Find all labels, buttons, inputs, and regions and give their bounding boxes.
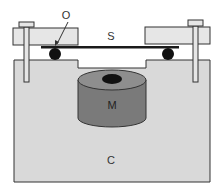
label-S: S <box>107 30 114 42</box>
left-clamp-block <box>13 28 78 45</box>
left-ball <box>49 48 61 60</box>
right-clamp-block <box>145 27 210 44</box>
label-M: M <box>107 99 116 111</box>
label-O: O <box>62 9 71 21</box>
magnet-hole <box>102 74 122 84</box>
sample-beam <box>41 46 179 49</box>
diagram: O S M C <box>0 0 222 193</box>
right-ball <box>162 48 174 60</box>
label-C: C <box>107 154 115 166</box>
